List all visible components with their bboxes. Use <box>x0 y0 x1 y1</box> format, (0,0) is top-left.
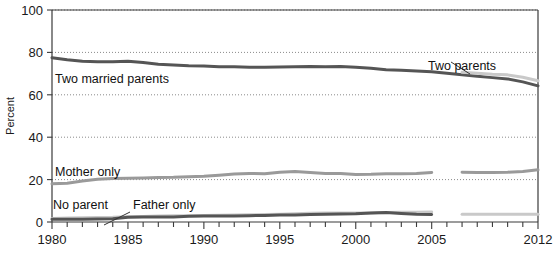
x-tick-label-1990: 1990 <box>189 232 218 247</box>
y-axis-title: Percent <box>4 97 16 135</box>
x-axis-ticks <box>52 222 538 229</box>
x-tick-label-1985: 1985 <box>113 232 142 247</box>
x-tick-label-2005: 2005 <box>417 232 446 247</box>
x-tick-labels: 1980198519901995200020052012 <box>38 232 553 247</box>
line-chart: 1980198519901995200020052012 02040608010… <box>0 0 555 261</box>
x-tick-label-1995: 1995 <box>265 232 294 247</box>
y-tick-label-60: 60 <box>29 88 43 103</box>
y-tick-labels: 020406080100 <box>21 3 43 230</box>
annotation-no-parent: No parent <box>53 198 108 212</box>
x-tick-label-1980: 1980 <box>38 232 67 247</box>
chart-container: 1980198519901995200020052012 02040608010… <box>0 0 555 261</box>
y-tick-label-100: 100 <box>21 3 43 18</box>
y-tick-label-20: 20 <box>29 173 43 188</box>
x-tick-label-2000: 2000 <box>341 232 370 247</box>
series-annotations: Two married parentsTwo parentsMother onl… <box>53 59 496 212</box>
series-line-mother-only-revised- <box>462 170 538 173</box>
annotation-two-parents: Two parents <box>428 59 496 73</box>
y-axis-ticks <box>47 10 52 222</box>
annotation-two-married-parents: Two married parents <box>55 72 169 86</box>
x-tick-label-2012: 2012 <box>524 232 553 247</box>
y-tick-label-40: 40 <box>29 130 43 145</box>
y-axis-title-text: Percent <box>4 97 16 135</box>
y-tick-label-80: 80 <box>29 45 43 60</box>
y-tick-label-0: 0 <box>36 215 43 230</box>
annotation-mother-only: Mother only <box>55 165 121 179</box>
grid-lines <box>52 10 538 180</box>
annotation-father-only: Father only <box>133 198 196 212</box>
plot-frame <box>52 10 538 222</box>
